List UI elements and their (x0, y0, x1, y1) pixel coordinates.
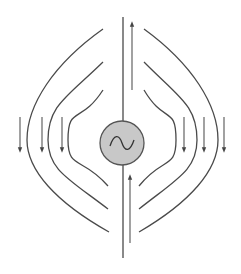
field-lines-right (139, 29, 218, 232)
field-line (48, 62, 108, 209)
field-line (139, 29, 218, 232)
field-lines-left (27, 29, 109, 232)
field-line (139, 90, 176, 186)
ac-source (100, 121, 144, 165)
field-diagram (0, 0, 241, 274)
field-line (139, 62, 197, 209)
